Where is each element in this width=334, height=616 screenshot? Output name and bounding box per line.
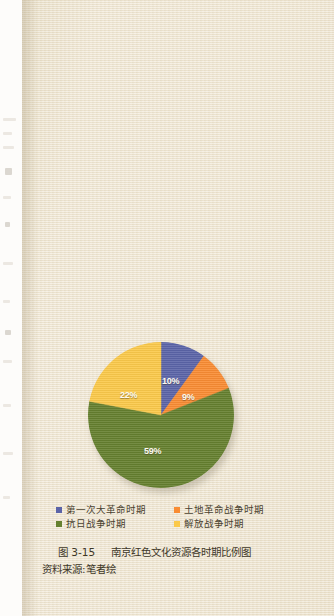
pie-label-liberation-war: 22% (120, 390, 137, 400)
figure-caption: 图 3-15 南京红色文化资源各时期比例图 资料来源:笔者绘 (42, 545, 322, 577)
pie-label-anti-japanese-war: 59% (144, 446, 161, 456)
legend-swatch-icon (56, 507, 62, 513)
legend-item-liberation-war: 解放战争时期 (174, 518, 244, 530)
legend-row-2: 抗日战争时期 解放战争时期 (56, 518, 306, 530)
pie-chart-graphic: 10% 9% 59% 22% (88, 342, 234, 488)
pie-label-first-great-revolution: 10% (162, 376, 179, 386)
caption-source-line: 资料来源:笔者绘 (42, 562, 322, 577)
legend-label: 土地革命战争时期 (184, 504, 264, 516)
legend-item-agrarian-revolution-war: 土地革命战争时期 (174, 504, 264, 516)
legend-swatch-icon (174, 521, 180, 527)
legend-swatch-icon (174, 507, 180, 513)
gutter-bleed-through (0, 0, 22, 616)
legend-label: 抗日战争时期 (66, 518, 126, 530)
figure-number: 图 3-15 (58, 546, 95, 558)
pie-svg (88, 342, 234, 488)
figure-title: 南京红色文化资源各时期比例图 (111, 546, 251, 558)
legend-item-anti-japanese-war: 抗日战争时期 (56, 518, 174, 530)
legend-row-1: 第一次大革命时期 土地革命战争时期 (56, 504, 306, 516)
caption-title-line: 图 3-15 南京红色文化资源各时期比例图 (58, 545, 322, 560)
figure-pie-chart: 10% 9% 59% 22% 第一次大革命时期 土地革命战争时期 抗日战争时期 (22, 330, 334, 590)
legend-label: 解放战争时期 (184, 518, 244, 530)
pie-label-agrarian-revolution-war: 9% (182, 392, 195, 402)
legend-item-first-great-revolution: 第一次大革命时期 (56, 504, 174, 516)
legend-label: 第一次大革命时期 (66, 504, 146, 516)
chart-legend: 第一次大革命时期 土地革命战争时期 抗日战争时期 解放战争时期 (56, 504, 306, 532)
pie-slices (88, 342, 234, 488)
legend-swatch-icon (56, 521, 62, 527)
scanned-book-page: 10% 9% 59% 22% 第一次大革命时期 土地革命战争时期 抗日战争时期 (0, 0, 334, 616)
